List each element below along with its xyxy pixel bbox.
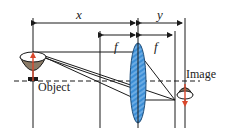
object-label: Object	[38, 81, 70, 93]
image-label: Image	[186, 68, 216, 80]
distance-arrows	[36, 23, 182, 35]
object-bowl-icon	[20, 52, 46, 81]
f-left-label: f	[114, 40, 118, 53]
convex-lens	[130, 43, 146, 123]
f-right-label: f	[154, 40, 158, 53]
x-label: x	[76, 8, 82, 21]
y-label: y	[157, 8, 163, 21]
image-bowl-icon	[177, 84, 193, 104]
